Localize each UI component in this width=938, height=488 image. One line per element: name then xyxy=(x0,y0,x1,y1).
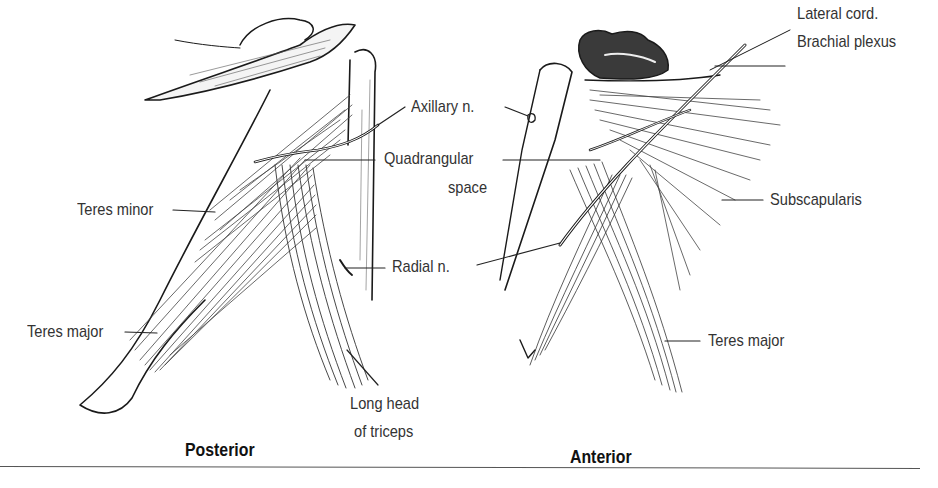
label-axillary-nerve: Axillary n. xyxy=(411,97,474,117)
label-quadrangular-space-line1: Quadrangular xyxy=(384,149,473,169)
label-lateral-cord-line2: Brachial plexus xyxy=(797,32,896,52)
anatomy-illustration xyxy=(0,0,938,488)
label-long-head-line1: Long head xyxy=(350,394,419,414)
anterior-leader-lines xyxy=(477,66,785,341)
panel-title-posterior: Posterior xyxy=(185,440,255,461)
label-subscapularis: Subscapularis xyxy=(770,190,862,210)
label-lateral-cord-line1: Lateral cord. xyxy=(797,4,878,24)
label-quadrangular-space-line2: space xyxy=(448,178,487,198)
label-teres-major-posterior: Teres major xyxy=(27,322,103,342)
label-teres-major-anterior: Teres major xyxy=(708,331,784,351)
panel-title-anterior: Anterior xyxy=(570,447,632,468)
label-teres-minor: Teres minor xyxy=(77,200,153,220)
label-long-head-line2: of triceps xyxy=(354,422,413,442)
label-radial-nerve: Radial n. xyxy=(392,257,450,277)
